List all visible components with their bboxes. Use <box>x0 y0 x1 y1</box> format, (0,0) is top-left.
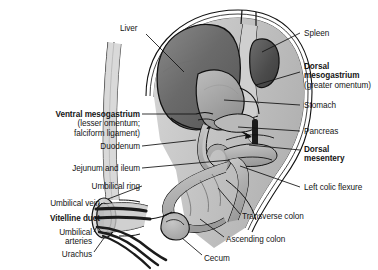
anatomy-figure: Ventral mesogastrium(lesser omentum; fal… <box>0 0 378 270</box>
label-ascending-colon: Ascending colon <box>226 235 326 244</box>
label-subtext-ventral-mesogastrium: (lesser omentum; falciform ligament) <box>74 119 140 137</box>
label-ventral-mesogastrium: Ventral mesogastrium(lesser omentum; fal… <box>12 110 140 138</box>
leader-cecum <box>182 238 202 255</box>
label-umbilical-ring: Umbilical ring <box>38 182 140 191</box>
label-text-urachus: Urachus <box>62 250 92 259</box>
label-pancreas: Pancreas <box>304 127 374 136</box>
label-transverse-colon: Transverse colon <box>242 212 342 221</box>
label-text-stomach: Stomach <box>304 101 336 110</box>
label-text-spleen: Spleen <box>304 29 329 38</box>
label-left-colic-flexure: Left colic flexure <box>304 183 378 192</box>
label-text-cecum: Cecum <box>204 254 230 263</box>
label-liver: Liver <box>120 24 160 33</box>
label-text-left-colic-flexure: Left colic flexure <box>304 183 362 192</box>
leader-urachus <box>94 238 104 252</box>
label-text-jejunum-and-ileum: Jejunum and ileum <box>72 164 140 173</box>
label-text-umbilical-ring: Umbilical ring <box>92 182 140 191</box>
umbilical-vessels <box>96 208 166 268</box>
label-duodenum: Duodenum <box>60 142 140 151</box>
label-text-dorsal-mesentery: Dorsal mesentery <box>304 145 345 163</box>
label-text-transverse-colon: Transverse colon <box>242 212 304 221</box>
label-cecum: Cecum <box>204 254 264 263</box>
label-umbilical-vein: Umbilical vein <box>8 199 100 208</box>
label-vitelline-duct: Vitelline duct <box>8 214 100 223</box>
label-dorsal-mesentery: Dorsal mesentery <box>304 145 378 164</box>
label-spleen: Spleen <box>304 29 374 38</box>
label-text-dorsal-mesogastrium: Dorsal mesogastrium <box>304 62 359 80</box>
label-text-umbilical-vein: Umbilical vein <box>50 199 100 208</box>
label-urachus: Urachus <box>30 250 92 259</box>
label-text-ascending-colon: Ascending colon <box>226 235 285 244</box>
label-text-duodenum: Duodenum <box>100 142 140 151</box>
label-stomach: Stomach <box>304 101 374 110</box>
cecum <box>161 213 189 240</box>
label-umbilical-arteries: Umbilical arteries <box>30 228 92 247</box>
label-dorsal-mesogastrium: Dorsal mesogastrium(greater omentum) <box>304 62 378 90</box>
label-jejunum-and-ileum: Jejunum and ileum <box>20 164 140 173</box>
label-text-umbilical-arteries: Umbilical arteries <box>59 228 92 246</box>
label-text-liver: Liver <box>120 24 138 33</box>
label-text-pancreas: Pancreas <box>304 127 338 136</box>
label-subtext-dorsal-mesogastrium: (greater omentum) <box>304 81 371 90</box>
label-text-vitelline-duct: Vitelline duct <box>50 214 100 223</box>
label-text-ventral-mesogastrium: Ventral mesogastrium <box>55 110 140 119</box>
